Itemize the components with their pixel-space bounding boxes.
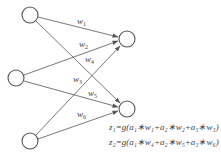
weight-label-w1: w1 (77, 16, 86, 27)
input-node-a2 (8, 70, 24, 86)
output-node-z2 (119, 101, 135, 117)
edge-a2-z2 (24, 81, 118, 107)
weight-label-w6: w6 (77, 109, 86, 120)
weight-label-w3: w3 (73, 74, 82, 85)
output-node-z1 (119, 31, 135, 47)
weight-label-w5: w5 (88, 88, 97, 99)
edge-a2-z1 (24, 41, 118, 75)
weight-label-w4: w4 (85, 54, 94, 65)
input-node-a1 (22, 7, 38, 23)
input-node-a3 (22, 133, 38, 149)
neural-network-diagram: w1 w2 w4 w3 w5 w6 (0, 0, 221, 159)
equation-z1: z₁=g(a₁∗w₁+a₂∗w₂+a₃∗w₃) (109, 122, 219, 132)
weight-label-w2: w2 (79, 39, 88, 50)
equation-z2: z₂=g(a₁∗w₄+a₂∗w₅+a₃∗w₆) (109, 137, 219, 147)
